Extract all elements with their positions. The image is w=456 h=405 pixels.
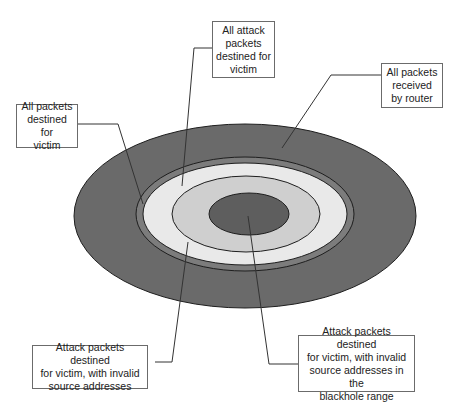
label-invalid-source: Attack packets destined for victim, with… — [32, 345, 148, 389]
label-all-packets-destined: All packets destined for victim — [16, 104, 78, 148]
label-blackhole-range: Attack packets destined for victim, with… — [298, 335, 415, 392]
label-all-attack-packets: All attack packets destined for victim — [212, 21, 275, 78]
ellipse-blackhole-range — [209, 193, 289, 235]
label-all-packets-received: All packets received by router — [381, 63, 443, 108]
